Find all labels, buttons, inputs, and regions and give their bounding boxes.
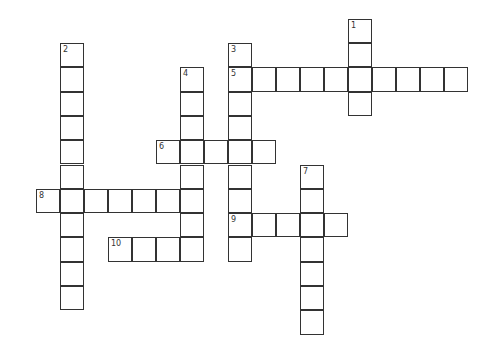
crossword-cell[interactable]: 4 (180, 67, 204, 91)
crossword-cell[interactable] (60, 286, 84, 310)
clue-number: 3 (231, 45, 236, 54)
crossword-cell[interactable]: 2 (60, 43, 84, 67)
crossword-cell[interactable] (300, 213, 324, 237)
clue-number: 8 (39, 191, 44, 200)
crossword-cell[interactable] (60, 189, 84, 213)
crossword-cell[interactable] (252, 140, 276, 164)
crossword-cell[interactable] (300, 310, 324, 334)
crossword-cell[interactable] (180, 116, 204, 140)
crossword-cell[interactable]: 6 (156, 140, 180, 164)
crossword-cell[interactable] (132, 189, 156, 213)
clue-number: 4 (183, 69, 188, 78)
crossword-cell[interactable] (180, 140, 204, 164)
crossword-cell[interactable] (60, 92, 84, 116)
clue-number: 9 (231, 215, 236, 224)
clue-number: 1 (351, 21, 356, 30)
crossword-cell[interactable] (180, 92, 204, 116)
crossword-cell[interactable]: 5 (228, 67, 252, 91)
crossword-cell[interactable] (60, 116, 84, 140)
clue-number: 10 (111, 239, 121, 248)
clue-number: 2 (63, 45, 68, 54)
crossword-cell[interactable] (372, 67, 396, 91)
crossword-cell[interactable] (396, 67, 420, 91)
crossword-cell[interactable] (228, 165, 252, 189)
crossword-cell[interactable] (324, 67, 348, 91)
crossword-cell[interactable] (60, 67, 84, 91)
crossword-cell[interactable] (84, 189, 108, 213)
crossword-cell[interactable] (60, 165, 84, 189)
crossword-cell[interactable] (180, 237, 204, 261)
crossword-cell[interactable] (348, 92, 372, 116)
crossword-cell[interactable] (300, 189, 324, 213)
clue-number: 6 (159, 142, 164, 151)
crossword-cell[interactable] (228, 116, 252, 140)
crossword-cell[interactable] (60, 140, 84, 164)
crossword-cell[interactable] (228, 92, 252, 116)
crossword-cell[interactable] (300, 262, 324, 286)
crossword-cell[interactable] (108, 189, 132, 213)
crossword-cell[interactable] (156, 189, 180, 213)
crossword-cell[interactable] (276, 67, 300, 91)
crossword-cell[interactable] (324, 213, 348, 237)
crossword-cell[interactable]: 3 (228, 43, 252, 67)
crossword-cell[interactable]: 1 (348, 19, 372, 43)
crossword-cell[interactable] (204, 140, 228, 164)
crossword-cell[interactable] (252, 67, 276, 91)
crossword-cell[interactable] (180, 189, 204, 213)
crossword-cell[interactable] (60, 262, 84, 286)
crossword-cell[interactable] (228, 237, 252, 261)
crossword-cell[interactable] (300, 67, 324, 91)
crossword-cell[interactable] (348, 67, 372, 91)
crossword-cell[interactable] (156, 237, 180, 261)
crossword-cell[interactable] (300, 237, 324, 261)
crossword-cell[interactable] (420, 67, 444, 91)
crossword-cell[interactable]: 8 (36, 189, 60, 213)
crossword-cell[interactable] (252, 213, 276, 237)
crossword-cell[interactable] (228, 189, 252, 213)
crossword-cell[interactable] (300, 286, 324, 310)
crossword-cell[interactable] (60, 237, 84, 261)
crossword-cell[interactable] (180, 213, 204, 237)
crossword-cell[interactable] (180, 165, 204, 189)
crossword-cell[interactable] (348, 43, 372, 67)
crossword-cell[interactable] (60, 213, 84, 237)
crossword-cell[interactable] (132, 237, 156, 261)
crossword-cell[interactable]: 7 (300, 165, 324, 189)
crossword-cell[interactable] (444, 67, 468, 91)
clue-number: 7 (303, 167, 308, 176)
crossword-cell[interactable] (228, 140, 252, 164)
crossword-cell[interactable]: 9 (228, 213, 252, 237)
clue-number: 5 (231, 69, 236, 78)
crossword-cell[interactable] (276, 213, 300, 237)
crossword-cell[interactable]: 10 (108, 237, 132, 261)
